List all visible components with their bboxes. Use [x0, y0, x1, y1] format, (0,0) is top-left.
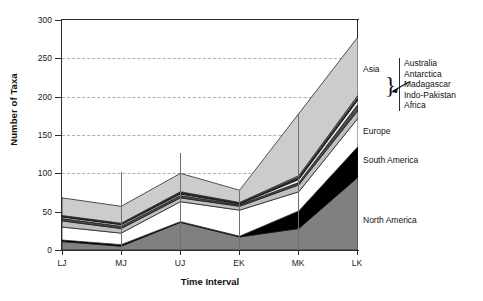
- chart-figure: Number of Taxa 300 250 200 150 100 50 0 …: [0, 0, 483, 301]
- interval-line-mj: [121, 172, 122, 250]
- y-axis-title: Number of Taxa: [8, 50, 19, 170]
- leader-arrow-icon: [389, 80, 411, 96]
- axis-bottom-spine: [61, 250, 359, 251]
- plot-area: [62, 20, 358, 250]
- y-tick-label-200: 200: [22, 93, 52, 102]
- y-tick-label-250: 250: [22, 54, 52, 63]
- interval-line-ek: [239, 190, 240, 250]
- x-tick-label-mj: MJ: [101, 258, 141, 268]
- x-tick-mk: [298, 250, 299, 255]
- series-label-north-america: North America: [363, 215, 417, 225]
- x-tick-label-mk: MK: [278, 258, 318, 268]
- y-tick-label-50: 50: [22, 208, 52, 217]
- stacked-area-series: [62, 20, 358, 250]
- series-label-asia: Asia: [363, 64, 380, 74]
- x-tick-mj: [121, 250, 122, 255]
- series-label-south-america: South America: [363, 155, 418, 165]
- x-tick-label-lj: LJ: [42, 258, 82, 268]
- interval-line-mk: [298, 113, 299, 250]
- x-tick-label-lk: LK: [337, 258, 377, 268]
- x-tick-ek: [239, 250, 240, 255]
- y-tick-label-100: 100: [22, 169, 52, 178]
- y-tick-label-0: 0: [22, 246, 52, 255]
- series-label-australia: Australia: [404, 58, 456, 69]
- x-tick-lj: [62, 250, 63, 255]
- x-tick-lk: [357, 250, 358, 255]
- series-label-africa: Africa: [404, 100, 456, 111]
- x-tick-label-uj: UJ: [160, 258, 200, 268]
- y-tick-label-150: 150: [22, 131, 52, 140]
- x-tick-label-ek: EK: [219, 258, 259, 268]
- series-label-antarctica: Antarctica: [404, 69, 456, 80]
- y-tick-label-300: 300: [22, 16, 52, 25]
- x-axis-title: Time Interval: [62, 276, 358, 287]
- interval-line-uj: [180, 153, 181, 250]
- series-label-madagascar: Madagascar: [404, 79, 456, 90]
- series-label-indo-pakistan: Indo-Pakistan: [404, 90, 456, 101]
- x-tick-uj: [180, 250, 181, 255]
- series-label-europe: Europe: [363, 126, 390, 136]
